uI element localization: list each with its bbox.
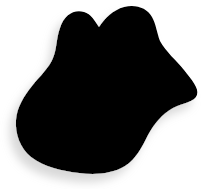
blob-graphic: Irregular black amoeba-like blob silhoue… <box>0 0 214 189</box>
image-canvas: Irregular black amoeba-like blob silhoue… <box>0 0 214 189</box>
